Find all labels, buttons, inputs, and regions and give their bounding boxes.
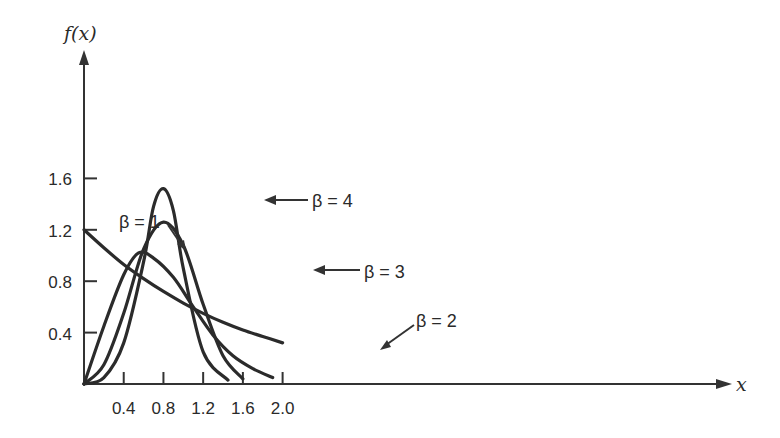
x-ticks: 0.40.81.21.62.0 [112, 372, 295, 418]
y-tick-label: 0.8 [48, 273, 72, 292]
curve-beta-3 [84, 222, 243, 384]
y-axis-title: f(x) [62, 22, 97, 44]
label-beta-4: β = 4 [312, 191, 353, 211]
curves [84, 189, 283, 384]
x-tick-label: 2.0 [271, 399, 295, 418]
y-tick-label: 1.2 [48, 222, 72, 241]
annotation-beta3: β = 3 [313, 262, 405, 282]
x-tick-label: 0.4 [112, 399, 136, 418]
x-tick-label: 1.2 [191, 399, 215, 418]
label-beta-1: β = 1 [119, 212, 160, 232]
x-tick-label: 0.8 [152, 399, 176, 418]
x-tick-label: 1.6 [231, 399, 255, 418]
y-axis-arrow-icon [79, 50, 89, 65]
annotation-beta4: β = 4 [264, 191, 353, 211]
x-axis-title: x [736, 373, 747, 395]
x-axis-arrow-icon [716, 379, 732, 389]
annotation-beta2: β = 2 [380, 311, 457, 350]
arrow-icon [313, 265, 325, 275]
y-ticks: 0.40.81.21.6 [48, 170, 97, 343]
arrow-icon [264, 195, 276, 205]
y-tick-label: 1.6 [48, 170, 72, 189]
label-beta-3: β = 3 [364, 262, 405, 282]
y-tick-label: 0.4 [48, 325, 72, 344]
weibull-density-chart: f(x) x 0.40.81.21.62.0 0.40.81.21.6 β = … [0, 0, 780, 438]
label-beta-2: β = 2 [416, 311, 457, 331]
